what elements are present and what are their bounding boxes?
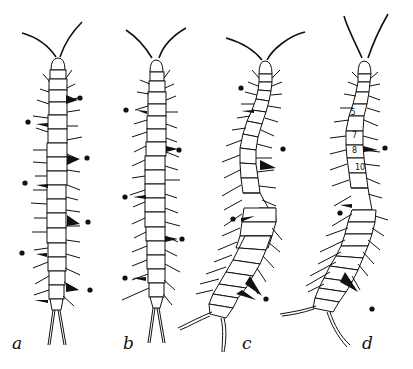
centipede-figure: 5 7 8 10 a b c d (0, 0, 413, 369)
panel-label-b: b (123, 333, 134, 353)
centipede-d: 5 7 8 10 (280, 14, 388, 347)
segment-number-10: 10 (355, 163, 365, 172)
centipede-c (178, 32, 305, 352)
segment-number-5: 5 (351, 108, 356, 117)
panel-label-d: d (362, 333, 373, 353)
panel-label-a: a (12, 333, 22, 353)
segment-number-7: 7 (352, 131, 357, 140)
figure-svg: 5 7 8 10 (0, 0, 413, 369)
segment-number-8: 8 (352, 146, 357, 155)
centipede-a (19, 22, 92, 345)
panel-label-c: c (242, 333, 252, 353)
centipede-b (122, 28, 186, 343)
